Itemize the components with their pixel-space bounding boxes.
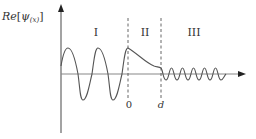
y-label-psi: ψ xyxy=(21,10,30,23)
y-axis-label: Re[ψ(x)] xyxy=(1,10,43,24)
y-axis-arrow-icon xyxy=(58,4,64,12)
x-tick-d: d xyxy=(158,99,164,110)
y-label-prefix: Re xyxy=(1,10,17,23)
region-2-decay xyxy=(128,48,161,68)
wavefunction-diagram: Re[ψ(x)] I II III 0 d xyxy=(0,0,256,139)
x-tick-zero: 0 xyxy=(126,99,132,110)
x-axis-arrow-icon xyxy=(238,71,246,77)
region-label-1: I xyxy=(94,26,98,39)
region-label-3: III xyxy=(187,26,200,39)
y-label-arg: (x) xyxy=(30,16,40,24)
region-label-2: II xyxy=(141,26,150,39)
y-label-close-bracket: ] xyxy=(39,10,43,23)
